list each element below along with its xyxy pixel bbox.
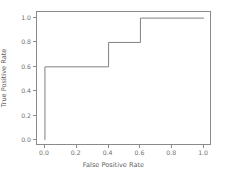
- x-tick-mark: [171, 145, 172, 148]
- y-tick-mark: [33, 17, 36, 18]
- y-tick-label: 0.4: [21, 87, 31, 94]
- roc-curve-figure: 0.00.20.40.60.81.0 0.00.20.40.60.81.0 Fa…: [0, 0, 227, 179]
- y-tick-mark: [33, 66, 36, 67]
- roc-curve-plot: [37, 12, 212, 146]
- y-tick-mark: [33, 41, 36, 42]
- y-tick-label: 0.6: [21, 62, 31, 69]
- x-tick-mark: [76, 145, 77, 148]
- y-tick-mark: [33, 115, 36, 116]
- y-tick-mark: [33, 90, 36, 91]
- x-tick-mark: [44, 145, 45, 148]
- x-tick-label: 0.6: [134, 149, 144, 156]
- x-tick-label: 0.0: [39, 149, 49, 156]
- x-tick-label: 1.0: [198, 149, 208, 156]
- x-tick-label: 0.2: [71, 149, 81, 156]
- y-tick-label: 0.8: [21, 38, 31, 45]
- y-tick-label: 0.0: [21, 135, 31, 142]
- y-tick-label: 0.2: [21, 111, 31, 118]
- plot-axes: [36, 11, 211, 145]
- x-tick-mark: [139, 145, 140, 148]
- x-tick-label: 0.8: [166, 149, 176, 156]
- x-tick-label: 0.4: [103, 149, 113, 156]
- x-axis-label: False Positive Rate: [0, 161, 227, 169]
- y-axis-label: True Positive Rate: [0, 49, 8, 108]
- y-tick-label: 1.0: [21, 14, 31, 21]
- x-tick-mark: [108, 145, 109, 148]
- y-tick-mark: [33, 139, 36, 140]
- x-tick-mark: [203, 145, 204, 148]
- roc-curve-line: [45, 18, 204, 140]
